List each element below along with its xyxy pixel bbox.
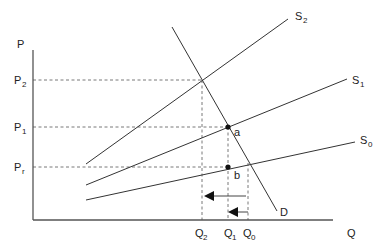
- point-b: [225, 164, 230, 169]
- svg-text:P: P: [14, 74, 21, 86]
- svg-text:2: 2: [203, 233, 208, 242]
- supply-curve-s2: [86, 19, 288, 164]
- supply-demand-diagram: P Q P 2 P 1 P r Q 2 Q 1 Q 0 S 2 S: [0, 0, 383, 252]
- price-label-p2: P 2: [14, 74, 27, 89]
- price-label-p1: P 1: [14, 121, 27, 136]
- svg-text:2: 2: [22, 80, 27, 89]
- svg-text:P: P: [14, 121, 21, 133]
- svg-text:2: 2: [303, 16, 308, 25]
- supply-curve-s0: [86, 142, 355, 200]
- svg-text:1: 1: [232, 233, 237, 242]
- svg-text:1: 1: [360, 80, 365, 89]
- arrow-short-left-icon: [228, 207, 248, 217]
- arrow-long-left-icon: [204, 191, 246, 201]
- x-axis-label: Q: [347, 227, 356, 239]
- supply-label-s1: S 1: [352, 74, 365, 89]
- svg-text:0: 0: [368, 140, 373, 149]
- supply-label-s2: S 2: [295, 10, 308, 25]
- svg-text:1: 1: [22, 127, 27, 136]
- point-b-label: b: [234, 169, 240, 181]
- svg-text:S: S: [352, 74, 359, 86]
- quantity-label-q0: Q 0: [243, 227, 256, 242]
- svg-text:r: r: [22, 167, 25, 176]
- demand-label: D: [280, 206, 288, 218]
- quantity-label-q1: Q 1: [224, 227, 237, 242]
- supply-curve-s1: [86, 79, 347, 185]
- svg-text:P: P: [14, 161, 21, 173]
- price-label-pr: P r: [14, 161, 25, 176]
- svg-text:S: S: [360, 134, 367, 146]
- point-a-label: a: [234, 126, 241, 138]
- y-axis-label: P: [17, 38, 24, 50]
- svg-text:S: S: [295, 10, 302, 22]
- svg-text:0: 0: [251, 233, 256, 242]
- quantity-label-q2: Q 2: [195, 227, 208, 242]
- supply-label-s0: S 0: [360, 134, 373, 149]
- point-a: [225, 124, 230, 129]
- demand-curve: [172, 27, 277, 211]
